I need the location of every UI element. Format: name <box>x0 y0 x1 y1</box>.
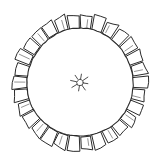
ring-lobe <box>80 15 92 30</box>
ring-lobe <box>12 76 27 90</box>
rosette-line-drawing <box>0 0 161 164</box>
ring-lobe <box>81 136 93 150</box>
ring-lobe <box>67 135 80 151</box>
drawing-canvas <box>0 0 161 164</box>
ring-lobe <box>132 76 148 88</box>
